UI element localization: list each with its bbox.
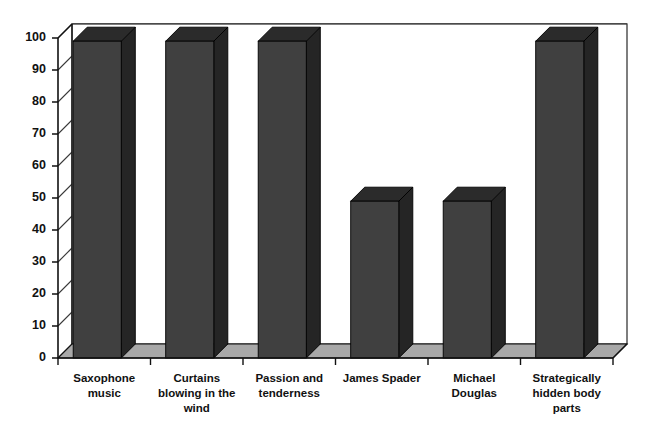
bar-6	[536, 27, 598, 358]
x-category-label-4: James Spader	[343, 372, 422, 384]
bar-front-face	[536, 41, 584, 358]
bar-side-face	[584, 27, 598, 358]
bar-side-face	[399, 187, 413, 358]
y-tick-label-80: 80	[32, 94, 46, 108]
bar-5	[443, 187, 505, 358]
y-tick-label-30: 30	[32, 254, 46, 268]
y-tick-label-70: 70	[32, 126, 46, 140]
bar-front-face	[73, 41, 121, 358]
y-tick-label-10: 10	[32, 318, 46, 332]
bar-side-face	[214, 27, 228, 358]
bar-1	[73, 27, 135, 358]
y-tick-label-20: 20	[32, 286, 46, 300]
chart-canvas: 0102030405060708090100 SaxophonemusicCur…	[0, 0, 651, 441]
bar-chart: 0102030405060708090100 SaxophonemusicCur…	[0, 0, 651, 441]
bar-side-face	[306, 27, 320, 358]
y-tick-label-100: 100	[25, 30, 46, 44]
bar-front-face	[351, 201, 399, 358]
bar-4	[351, 187, 413, 358]
y-tick-label-90: 90	[32, 62, 46, 76]
bar-front-face	[258, 41, 306, 358]
bar-3	[258, 27, 320, 358]
y-tick-label-0: 0	[39, 350, 46, 364]
y-tick-label-60: 60	[32, 158, 46, 172]
bar-front-face	[443, 201, 491, 358]
bar-front-face	[166, 41, 214, 358]
y-tick-label-40: 40	[32, 222, 46, 236]
bar-side-face	[491, 187, 505, 358]
y-tick-label-50: 50	[32, 190, 46, 204]
bar-side-face	[121, 27, 135, 358]
bar-2	[166, 27, 228, 358]
